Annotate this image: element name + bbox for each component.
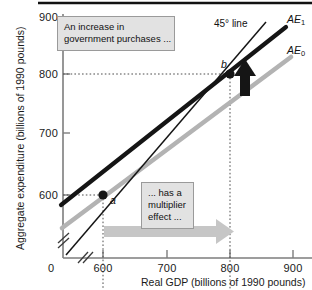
x-tick-label-600: 600 — [83, 262, 123, 274]
y-axis-title: Aggregate expenditure (billions of 1990 … — [14, 26, 26, 250]
forty-five-degree-line-label: 45° line — [214, 18, 247, 29]
callout-line-2: government purchases ... — [64, 33, 168, 45]
point-b-marker — [225, 69, 234, 78]
multiplier-effect-callout: ... has a multiplier effect ... — [141, 182, 194, 229]
y-tick-label-700: 700 — [28, 127, 58, 139]
callout-line-1: ... has a — [148, 187, 187, 199]
government-purchases-callout: An increase in government purchases ... — [57, 16, 175, 51]
ae0-label-text: AE — [287, 44, 301, 56]
x-tick-label-900: 900 — [273, 262, 312, 274]
ae1-label-text: AE — [287, 13, 301, 25]
y-tick-label-600: 600 — [28, 189, 58, 201]
x-tick-label-800: 800 — [210, 262, 250, 274]
y-tick-label-800: 800 — [28, 68, 58, 80]
x-tick-label-700: 700 — [147, 262, 187, 274]
aggregate-expenditure-chart: 900 800 700 600 0 600 700 800 900 Aggreg… — [0, 0, 312, 290]
callout-line-2: multiplier — [148, 199, 187, 211]
y-tick-label-900: 900 — [28, 11, 58, 23]
x-axis-title: Real GDP (billions of 1990 pounds) — [141, 276, 305, 288]
callout-line-1: An increase in — [64, 21, 168, 33]
ae0-label-subscript: 0 — [301, 49, 305, 58]
point-a-marker — [98, 190, 107, 199]
point-a-label: a — [110, 194, 116, 206]
ae1-label-subscript: 1 — [301, 18, 305, 27]
origin-label: 0 — [48, 262, 54, 274]
callout-line-3: effect ... — [148, 211, 187, 223]
point-b-label: b — [221, 58, 227, 70]
ae1-line — [61, 27, 286, 205]
ae0-curve-label: AE0 — [287, 44, 305, 56]
ae1-curve-label: AE1 — [287, 13, 305, 25]
